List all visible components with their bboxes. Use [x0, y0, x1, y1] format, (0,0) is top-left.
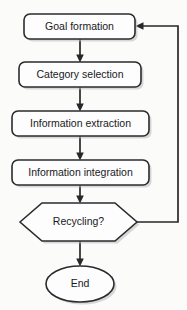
- node-label-category-selection: Category selection: [37, 68, 124, 80]
- connector-category-to-extraction: [76, 87, 84, 112]
- connector-extraction-to-integration: [76, 136, 84, 161]
- node-goal-formation[interactable]: Goal formation: [24, 14, 138, 42]
- node-label-recycling-decision: Recycling?: [53, 215, 105, 227]
- node-category-selection[interactable]: Category selection: [19, 62, 144, 90]
- flowchart-canvas: Goal formation Category selection Inform…: [0, 0, 187, 310]
- node-label-end-terminator: End: [71, 277, 90, 289]
- node-recycling-decision[interactable]: Recycling?: [20, 203, 140, 244]
- connector-recycling-to-end: [76, 241, 84, 267]
- node-end-terminator[interactable]: End: [46, 266, 117, 305]
- node-label-information-extraction: Information extraction: [30, 117, 131, 129]
- node-label-goal-formation: Goal formation: [45, 20, 114, 32]
- node-label-information-integration: Information integration: [28, 166, 133, 178]
- connector-goal-to-category: [76, 39, 84, 63]
- node-information-integration[interactable]: Information integration: [12, 160, 152, 188]
- node-information-extraction[interactable]: Information extraction: [12, 111, 152, 139]
- connector-integration-to-recycling: [76, 185, 84, 204]
- flowchart-svg: Goal formation Category selection Inform…: [0, 0, 187, 310]
